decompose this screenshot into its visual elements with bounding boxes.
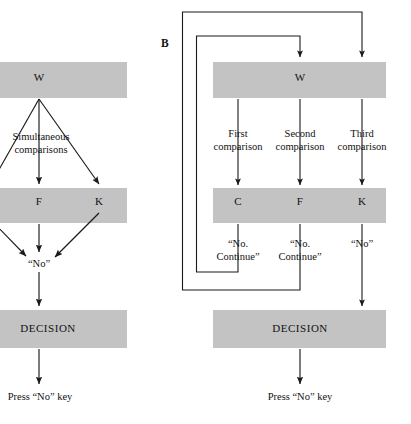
- panel-b-second-comparison-line2: comparison: [276, 141, 325, 152]
- panel-b-feedback-loop-f: [183, 12, 363, 290]
- panel-a-edge-offscreen-to-no: [0, 221, 26, 256]
- panel-a-no-label: “No”: [28, 258, 50, 269]
- panel-b-w-label: W: [295, 72, 306, 84]
- panel-b-letter: B: [161, 37, 169, 49]
- panel-a-w-label: W: [34, 72, 45, 84]
- panel-a-k-label: K: [95, 196, 103, 208]
- panel-a-decision-label: DECISION: [20, 323, 76, 335]
- flowchart-vector-layer: [0, 0, 411, 424]
- panel-b-no-continue-f-line1: “No.: [290, 238, 310, 249]
- panel-b-third-comparison-line1: Third: [350, 128, 373, 139]
- panel-b-no-continue-c-line1: “No.: [228, 238, 248, 249]
- panel-b-no-k-label: “No”: [351, 238, 373, 249]
- panel-b-k-label: K: [358, 196, 366, 208]
- panel-b-no-continue-c-line2: Continue”: [216, 251, 259, 262]
- panel-a-simultaneous-comparisons-line2: comparisons: [14, 144, 67, 155]
- panel-b-no-continue-f-line2: Continue”: [278, 251, 321, 262]
- panel-a-press-no-key: Press “No” key: [8, 391, 73, 402]
- panel-a-f-label: F: [36, 196, 42, 208]
- panel-b-c-label: C: [234, 196, 242, 208]
- panel-a-fk-box: [0, 188, 127, 223]
- panel-a-w-box: [0, 62, 127, 98]
- panel-b-press-no-key: Press “No” key: [268, 391, 333, 402]
- figure-canvas: W F K Simultaneous comparisons “No” DECI…: [0, 0, 411, 424]
- panel-b-f-label: F: [297, 196, 303, 208]
- panel-b-first-comparison-line2: comparison: [214, 141, 263, 152]
- panel-b-third-comparison-line2: comparison: [338, 141, 387, 152]
- panel-a-simultaneous-comparisons-line1: Simultaneous: [12, 131, 69, 142]
- panel-b-first-comparison-line1: First: [228, 128, 247, 139]
- panel-b-second-comparison-line1: Second: [285, 128, 316, 139]
- panel-b-decision-label: DECISION: [272, 323, 328, 335]
